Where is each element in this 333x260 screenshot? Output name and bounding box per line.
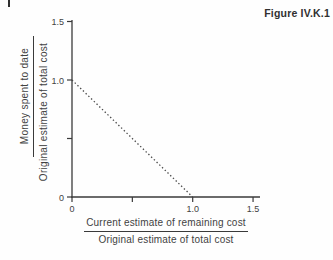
x-tick-label: 0 [69,204,74,214]
series-linear-depletion-line [72,80,193,197]
x-axis-label: Current estimate of remaining cost Origi… [84,217,248,245]
y-axis-label-denominator: Original estimate of total cost [37,27,49,197]
x-axis-label-denominator: Original estimate of total cost [84,234,248,245]
figure-page: Figure IV.K.1 01.01.501.01.5 Money spent… [0,0,333,260]
x-axis-fraction-bar [84,231,248,232]
y-tick-label: 1.0 [51,76,64,86]
y-tick-label: 0 [59,193,64,203]
x-axis-label-numerator: Current estimate of remaining cost [84,217,248,228]
y-tick-label: 1.5 [51,17,64,27]
x-tick-label: 1.0 [186,204,199,214]
y-axis-fraction-bar [33,36,34,157]
y-axis-label-numerator: Money spent to date [18,11,30,181]
x-tick-label: 1.5 [247,204,260,214]
